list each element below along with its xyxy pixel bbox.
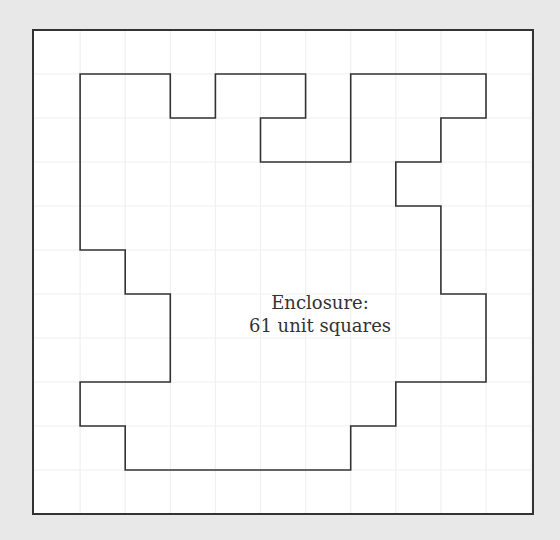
grid-diagram — [0, 0, 560, 540]
enclosure-label: Enclosure: 61 unit squares — [220, 291, 420, 337]
label-title: Enclosure: — [220, 291, 420, 314]
diagram-stage: Enclosure: 61 unit squares — [0, 0, 560, 540]
label-area: 61 unit squares — [220, 314, 420, 337]
canvas-frame — [33, 30, 533, 514]
